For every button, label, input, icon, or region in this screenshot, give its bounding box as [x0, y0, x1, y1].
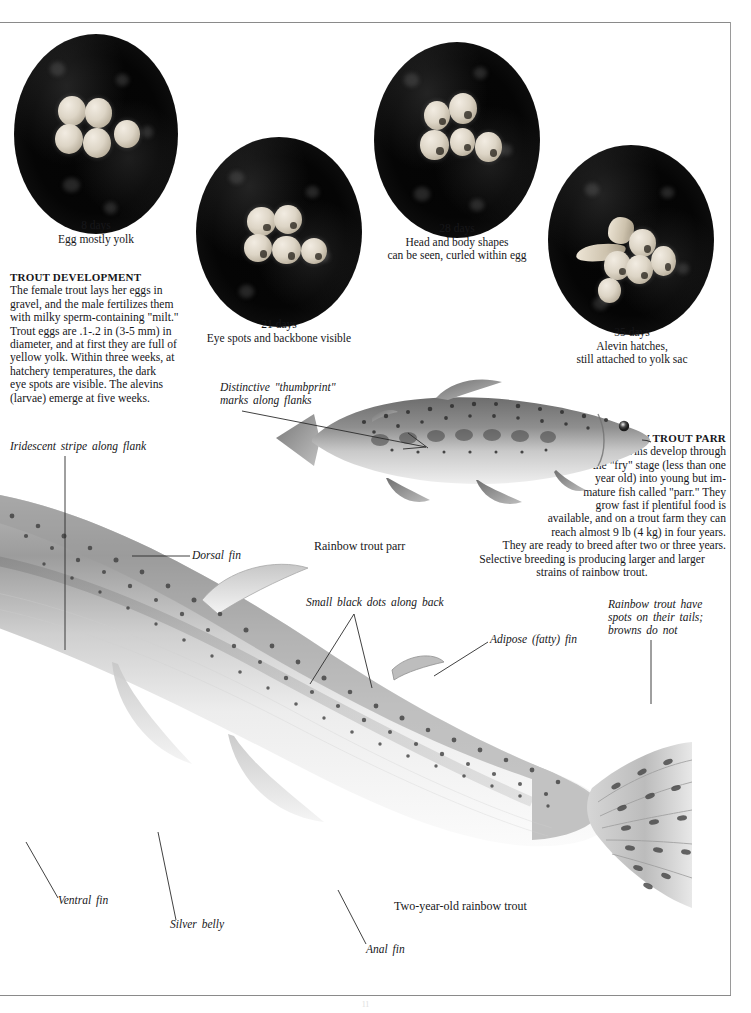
egg-photo-8-days — [14, 34, 178, 234]
egg-photo-35-days — [548, 145, 714, 335]
leader-small-black-dots — [300, 612, 390, 690]
trout-development-body: The female trout lays her eggs in gravel… — [10, 284, 206, 405]
leader-anal-fin — [336, 888, 370, 948]
leader-tail-spots — [648, 640, 654, 706]
leader-dorsal-fin — [132, 552, 192, 560]
callout-small-black-dots: Small black dots along back — [306, 596, 536, 609]
page-number: 11 — [0, 1000, 731, 1009]
callout-tail-spots: Rainbow trout have spots on their tails;… — [608, 598, 744, 637]
leader-iridescent-stripe — [62, 456, 68, 652]
callout-anal-fin: Anal fin — [366, 943, 466, 956]
callout-silver-belly: Silver belly — [170, 918, 290, 931]
caption-8-days: 8 days Egg mostly yolk — [36, 219, 156, 246]
callout-dorsal-fin: Dorsal fin — [192, 549, 302, 562]
caption-21-days: 21 days Eye spots and backbone visible — [188, 318, 370, 345]
trout-development-heading: TROUT DEVELOPMENT — [10, 271, 206, 284]
caption-28-days: 28 days Head and body shapes can be seen… — [368, 222, 546, 263]
leader-ventral-fin — [24, 840, 62, 900]
callout-thumbprint-marks: Distinctive "thumbprint" marks along fla… — [220, 381, 380, 407]
egg-photo-28-days — [374, 42, 540, 238]
page-rule-bottom — [0, 995, 731, 996]
encyclopedia-page: 11 8 days Egg mostly yolk 21 days Eye sp… — [0, 0, 751, 1013]
callout-iridescent-stripe: Iridescent stripe along flank — [10, 440, 220, 453]
leader-thumbprint — [240, 405, 440, 451]
leader-silver-belly — [156, 830, 182, 922]
caption-35-days: 35 days Alevin hatches, still attached t… — [556, 326, 708, 367]
egg-photo-21-days — [196, 137, 362, 327]
callout-ventral-fin: Ventral fin — [58, 894, 168, 907]
page-rule-top — [0, 22, 731, 23]
trout-development-block: TROUT DEVELOPMENT The female trout lays … — [10, 271, 206, 405]
caption-two-year-old-rainbow-trout: Two-year-old rainbow trout — [394, 899, 614, 913]
leader-adipose-fin — [432, 640, 490, 678]
page-rule-right — [730, 22, 731, 996]
